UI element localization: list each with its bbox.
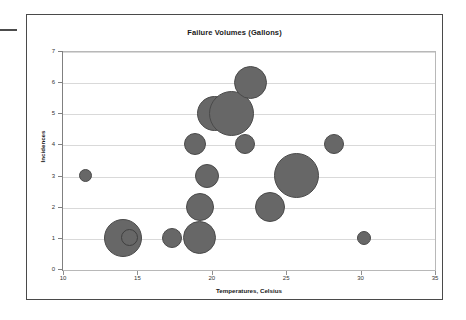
bubble-25.7-3[interactable] (274, 153, 319, 198)
y-tick-label-4: 4 (37, 141, 55, 147)
gridline-y-2 (63, 208, 435, 209)
y-tick-label-2: 2 (37, 204, 55, 210)
gridline-y-7 (63, 52, 435, 53)
y-tick-mark-6 (58, 82, 62, 83)
y-tick-mark-3 (58, 176, 62, 177)
y-tick-mark-4 (58, 144, 62, 145)
bubble-19.2-2[interactable] (186, 193, 214, 221)
bubble-19.7-3[interactable] (195, 164, 219, 188)
gridline-y-3 (63, 177, 435, 178)
left-margin-dash (0, 29, 17, 31)
y-tick-label-7: 7 (37, 48, 55, 54)
y-tick-mark-7 (58, 51, 62, 52)
x-tick-label-20: 20 (199, 275, 225, 281)
y-tick-label-3: 3 (37, 173, 55, 179)
chart-title: Failure Volumes (Gallons) (27, 28, 442, 37)
bubble-23.9-2[interactable] (255, 192, 285, 222)
x-tick-label-15: 15 (124, 275, 150, 281)
y-tick-mark-0 (58, 269, 62, 270)
y-tick-label-5: 5 (37, 110, 55, 116)
y-tick-mark-1 (58, 238, 62, 239)
bubble-30.2-1[interactable] (357, 231, 371, 245)
y-tick-label-6: 6 (37, 79, 55, 85)
bubble-11.5-3[interactable] (79, 169, 92, 182)
bubble-17.3-1[interactable] (162, 228, 182, 248)
y-tick-mark-2 (58, 207, 62, 208)
y-tick-mark-5 (58, 113, 62, 114)
x-tick-label-35: 35 (422, 275, 448, 281)
x-axis-title: Temperatures, Celsius (63, 287, 435, 294)
y-tick-label-1: 1 (37, 235, 55, 241)
bubble-22.6-6[interactable] (234, 66, 267, 99)
chart-frame: Failure Volumes (Gallons) Temperatures, … (26, 14, 443, 300)
bubble-22.2-4[interactable] (235, 134, 255, 154)
y-tick-label-0: 0 (37, 266, 55, 272)
x-tick-label-25: 25 (273, 275, 299, 281)
x-tick-label-30: 30 (348, 275, 374, 281)
x-tick-label-10: 10 (50, 275, 76, 281)
